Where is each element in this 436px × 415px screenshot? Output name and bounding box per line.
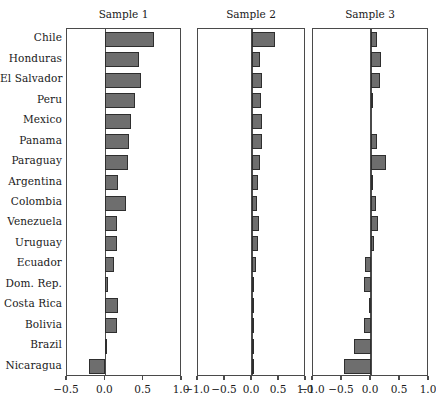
bar bbox=[344, 359, 371, 374]
bar bbox=[252, 318, 254, 333]
bar bbox=[371, 134, 377, 149]
x-axis-tick-label: 0.0 bbox=[362, 383, 379, 395]
x-axis-tick-label: 0.5 bbox=[270, 383, 287, 395]
bar bbox=[252, 93, 261, 108]
bar bbox=[105, 52, 139, 67]
bar bbox=[371, 52, 381, 67]
bar bbox=[252, 359, 254, 374]
category-label: Chile bbox=[0, 32, 62, 43]
bar bbox=[252, 52, 260, 67]
x-axis-tick bbox=[427, 376, 428, 380]
bar bbox=[105, 114, 130, 129]
category-label: Brazil bbox=[0, 339, 62, 350]
bar bbox=[105, 93, 135, 108]
x-axis-tick-label: −0.5 bbox=[211, 383, 237, 395]
category-label: Dom. Rep. bbox=[0, 278, 62, 289]
category-label: Ecuador bbox=[0, 257, 62, 268]
panel-title: Sample 2 bbox=[197, 8, 305, 20]
x-axis-tick bbox=[250, 376, 251, 380]
category-label: Mexico bbox=[0, 114, 62, 125]
bar bbox=[252, 339, 254, 354]
bar bbox=[252, 114, 262, 129]
x-axis-tick bbox=[311, 376, 312, 380]
bar bbox=[105, 277, 107, 292]
x-axis-tick bbox=[369, 376, 370, 380]
bar bbox=[371, 216, 378, 231]
x-axis-tick bbox=[304, 376, 305, 380]
panel-1 bbox=[66, 28, 181, 376]
x-axis-tick bbox=[104, 376, 105, 380]
bar bbox=[105, 32, 154, 47]
bar bbox=[105, 73, 141, 88]
bar bbox=[105, 339, 107, 354]
bar bbox=[371, 196, 376, 211]
x-axis-tick bbox=[277, 376, 278, 380]
bar bbox=[371, 175, 373, 190]
bar bbox=[252, 277, 254, 292]
bar bbox=[105, 155, 128, 170]
panel-3 bbox=[312, 28, 428, 376]
x-axis-tick bbox=[65, 376, 66, 380]
bar bbox=[105, 196, 126, 211]
category-label: Peru bbox=[0, 94, 62, 105]
panel-2 bbox=[197, 28, 305, 376]
bar bbox=[369, 298, 371, 313]
bar bbox=[354, 339, 371, 354]
bar bbox=[252, 32, 275, 47]
panel-title: Sample 1 bbox=[66, 8, 181, 20]
bar bbox=[252, 73, 262, 88]
category-label: Venezuela bbox=[0, 216, 62, 227]
bar bbox=[105, 175, 118, 190]
panel-title: Sample 3 bbox=[312, 8, 428, 20]
bar bbox=[252, 216, 259, 231]
x-axis-tick-label: −0.5 bbox=[328, 383, 354, 395]
category-label: Bolivia bbox=[0, 319, 62, 330]
category-label: Argentina bbox=[0, 176, 62, 187]
bar bbox=[371, 73, 380, 88]
bar bbox=[252, 155, 260, 170]
x-axis-tick-label: −0.5 bbox=[53, 383, 79, 395]
bar bbox=[252, 298, 254, 313]
x-axis-tick-label: 0.5 bbox=[391, 383, 408, 395]
bar bbox=[105, 236, 117, 251]
category-label: El Salvador bbox=[0, 73, 62, 84]
bar bbox=[105, 257, 113, 272]
x-axis-tick bbox=[142, 376, 143, 380]
bar bbox=[252, 196, 257, 211]
x-axis-tick-label: 0.5 bbox=[134, 383, 151, 395]
category-label: Uruguay bbox=[0, 237, 62, 248]
x-axis-tick bbox=[223, 376, 224, 380]
category-label: Paraguay bbox=[0, 155, 62, 166]
bar bbox=[371, 155, 386, 170]
x-axis-tick-label: −1.0 bbox=[299, 383, 325, 395]
category-axis-labels: ChileHondurasEl SalvadorPeruMexicoPanama… bbox=[0, 28, 62, 376]
category-label: Nicaragua bbox=[0, 360, 62, 371]
bar bbox=[105, 134, 129, 149]
x-axis-tick bbox=[398, 376, 399, 380]
category-label: Colombia bbox=[0, 196, 62, 207]
x-axis-tick-label: 0.0 bbox=[96, 383, 113, 395]
x-axis-tick-label: −1.0 bbox=[184, 383, 210, 395]
bar bbox=[252, 134, 262, 149]
bar bbox=[371, 236, 374, 251]
bar bbox=[364, 277, 371, 292]
bar bbox=[371, 32, 377, 47]
bar bbox=[89, 359, 105, 374]
x-axis-tick bbox=[180, 376, 181, 380]
category-label: Panama bbox=[0, 135, 62, 146]
bar bbox=[252, 236, 258, 251]
bar bbox=[105, 216, 117, 231]
bar bbox=[105, 298, 118, 313]
x-axis-tick-label: 0.0 bbox=[243, 383, 260, 395]
bar bbox=[364, 318, 371, 333]
bar bbox=[105, 318, 117, 333]
bar bbox=[252, 175, 258, 190]
bar bbox=[365, 257, 371, 272]
bar bbox=[371, 93, 373, 108]
x-axis-tick-label: 1.0 bbox=[420, 383, 436, 395]
bar bbox=[252, 257, 256, 272]
category-label: Honduras bbox=[0, 53, 62, 64]
category-label: Costa Rica bbox=[0, 298, 62, 309]
x-axis-tick bbox=[196, 376, 197, 380]
